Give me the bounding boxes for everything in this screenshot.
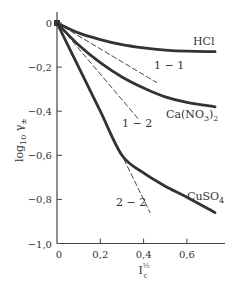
svg-text:I½c: I½c (138, 262, 149, 280)
x-tick-label: 0,2 (92, 249, 108, 260)
x-tick-label: 0,4 (136, 249, 152, 260)
label-1-1: 1 − 1 (154, 59, 184, 72)
label-ca-no3-2: Ca(NO3)2 (166, 108, 218, 123)
label-cuso4: CuSO4 (187, 190, 224, 205)
axes: 0−0,2−0,4−0,6−0,8−1,000,20,40,6 (28, 12, 225, 260)
y-tick-label: 0 (46, 18, 52, 29)
x-tick-label: 0,6 (179, 249, 195, 260)
label-1-2: 1 − 2 (122, 117, 152, 130)
origin-marker (54, 20, 60, 26)
y-tick-label: −0,8 (28, 194, 52, 205)
label-2-2: 2 − 2 (116, 196, 146, 209)
y-axis-label: log10 γ± (13, 118, 28, 162)
y-tick-label: −0,6 (28, 150, 52, 161)
y-tick-label: −1,0 (28, 239, 52, 250)
label-hcl: HCl (193, 35, 215, 48)
y-tick-label: −0,2 (28, 62, 52, 73)
x-tick-label: 0 (56, 249, 62, 260)
series-ca-no3-2 (57, 23, 215, 107)
svg-text:log10 γ±: log10 γ± (13, 118, 28, 162)
series-labels: HCl1 − 1Ca(NO3)21 − 22 − 2CuSO4 (116, 35, 224, 209)
y-tick-label: −0,4 (28, 106, 52, 117)
x-axis-label: I½c (138, 262, 149, 280)
activity-coefficient-chart: 0−0,2−0,4−0,6−0,8−1,000,20,40,6 HCl1 − 1… (0, 0, 232, 287)
